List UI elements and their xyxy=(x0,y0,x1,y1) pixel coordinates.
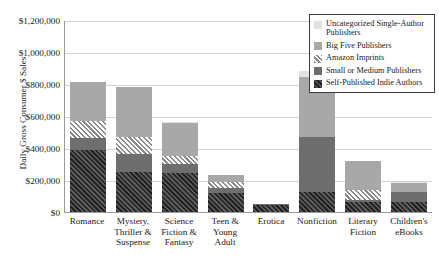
legend-item-label: Uncategorized Single-Author Publishers xyxy=(326,19,430,38)
y-axis-tick-label: $800,000 xyxy=(26,80,60,90)
gray-swatch xyxy=(314,42,322,50)
bar-segment[interactable] xyxy=(299,137,335,192)
legend-item[interactable]: Self-Published Indie Authors xyxy=(314,78,430,88)
x-axis-tick-label: Mystery, Thriller & Suspense xyxy=(110,216,156,248)
legend-item[interactable]: Small or Medium Publishers xyxy=(314,66,430,76)
bar-segment[interactable] xyxy=(391,192,427,202)
legend-item-label: Big Five Publishers xyxy=(326,41,391,50)
dark-hatched-swatch xyxy=(314,80,322,88)
bar-segment[interactable] xyxy=(116,154,152,172)
bar-segment[interactable] xyxy=(391,183,427,192)
x-axis-labels: RomanceMystery, Thriller & SuspenseScien… xyxy=(64,216,432,248)
bar-segment[interactable] xyxy=(345,161,381,191)
bar-column[interactable] xyxy=(70,21,106,212)
light-gray-swatch xyxy=(314,21,322,29)
x-axis-tick-label: Nonfiction xyxy=(294,216,340,248)
bar-segment[interactable] xyxy=(345,202,381,212)
bar-segment[interactable] xyxy=(162,164,198,173)
stacked-bar-chart: Daily Gross Consumer $ Sales $1,200,000$… xyxy=(0,0,439,276)
legend-item[interactable]: Amazon Imprints xyxy=(314,53,430,63)
y-axis-tick-label: $0 xyxy=(51,208,60,218)
hatched-swatch xyxy=(314,55,322,63)
bar-segment[interactable] xyxy=(162,156,198,164)
y-axis-tick-label: $600,000 xyxy=(26,112,60,122)
bar-segment[interactable] xyxy=(70,138,106,150)
legend-item-label: Self-Published Indie Authors xyxy=(326,78,422,87)
bar-segment[interactable] xyxy=(116,137,152,155)
bar-column[interactable] xyxy=(208,21,244,212)
bar-segment[interactable] xyxy=(162,173,198,212)
legend: Uncategorized Single-Author PublishersBi… xyxy=(309,14,435,93)
bar-segment[interactable] xyxy=(208,175,244,182)
dark-gray-swatch xyxy=(314,67,322,75)
bar-segment[interactable] xyxy=(116,87,152,137)
x-axis-tick-label: Erotica xyxy=(248,216,294,248)
bar-segment[interactable] xyxy=(70,82,106,120)
y-axis-tick-label: $1,200,000 xyxy=(19,16,60,26)
y-axis-tick-label: $200,000 xyxy=(26,176,60,186)
bar-column[interactable] xyxy=(116,21,152,212)
bar-segment[interactable] xyxy=(253,205,289,212)
x-axis-tick-label: Children's eBooks xyxy=(386,216,432,248)
bar-segment[interactable] xyxy=(70,150,106,212)
legend-item-label: Amazon Imprints xyxy=(326,53,384,62)
x-axis-tick-label: Science Fiction & Fantasy xyxy=(156,216,202,248)
bar-segment[interactable] xyxy=(345,190,381,200)
bar-segment[interactable] xyxy=(162,123,198,156)
x-axis-tick-label: Teen & Young Adult xyxy=(202,216,248,248)
bar-segment[interactable] xyxy=(299,192,335,212)
y-axis-tick-label: $400,000 xyxy=(26,144,60,154)
bar-column[interactable] xyxy=(162,21,198,212)
bar-segment[interactable] xyxy=(70,121,106,138)
bar-segment[interactable] xyxy=(391,202,427,212)
legend-item[interactable]: Big Five Publishers xyxy=(314,41,430,51)
bar-segment[interactable] xyxy=(116,172,152,212)
legend-item[interactable]: Uncategorized Single-Author Publishers xyxy=(314,19,430,38)
x-axis-tick-label: Romance xyxy=(64,216,110,248)
bar-column[interactable] xyxy=(253,21,289,212)
bar-segment[interactable] xyxy=(208,193,244,212)
x-axis-tick-label: Literary Fiction xyxy=(340,216,386,248)
gridline: $0 xyxy=(65,213,432,214)
legend-item-label: Small or Medium Publishers xyxy=(326,66,421,75)
y-axis-tick-label: $1,000,000 xyxy=(19,48,60,58)
